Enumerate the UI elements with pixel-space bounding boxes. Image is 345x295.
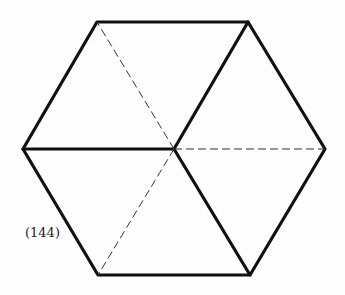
- dashed-edge-center-bottom-left: [98, 149, 174, 275]
- solid-edge-center-bottom-right: [174, 149, 250, 275]
- hexagon-diagram: [0, 0, 345, 295]
- dashed-edge-center-top-left: [97, 22, 174, 149]
- figure-label: (144): [25, 225, 60, 240]
- solid-edge-center-top-right: [174, 22, 248, 149]
